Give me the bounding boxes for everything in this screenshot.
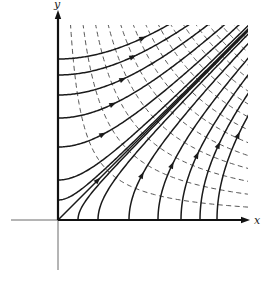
streamline <box>58 0 258 75</box>
flow-arrow-icon <box>215 142 220 149</box>
x-axis-arrowhead-icon <box>241 217 250 223</box>
streamline <box>158 15 271 220</box>
diagonal-streamline <box>58 20 258 220</box>
flow-arrow-icon <box>234 132 239 139</box>
flow-arrow-icon <box>119 78 126 83</box>
flow-arrow-icon <box>99 133 106 139</box>
y-axis-arrowhead-icon <box>55 10 61 19</box>
flow-arrow-icon <box>193 152 198 159</box>
y-axis-label: y <box>53 0 61 11</box>
streamlines <box>58 0 271 220</box>
streamline <box>181 15 271 220</box>
streamline <box>217 15 271 220</box>
flow-arrow-icon <box>129 55 136 60</box>
streamline <box>58 0 258 95</box>
streamline <box>200 15 271 220</box>
flow-arrow-icon <box>168 162 173 169</box>
flow-diagram: x y <box>0 0 271 282</box>
flow-arrow-icon <box>138 172 144 179</box>
flow-arrow-icon <box>109 103 116 108</box>
x-axis-label: x <box>254 214 261 227</box>
streamline <box>58 16 258 180</box>
